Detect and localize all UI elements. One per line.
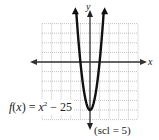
function-constant: − 25	[47, 100, 72, 114]
y-axis-down-arrow-icon	[87, 123, 93, 130]
function-name: f	[9, 100, 12, 114]
x-axis-left-arrow-icon	[30, 59, 37, 65]
scale-note: (scl = 5)	[94, 124, 131, 136]
curve-left-arrow-icon	[72, 7, 79, 14]
x-axis-label: x	[148, 56, 152, 67]
function-label: f(x) = x2 − 25	[8, 100, 73, 115]
y-axis-label: y	[86, 1, 90, 12]
function-variable: x	[16, 100, 21, 114]
x-axis-right-arrow-icon	[140, 59, 147, 65]
coordinate-plane	[0, 0, 159, 140]
curve-right-arrow-icon	[101, 7, 108, 14]
